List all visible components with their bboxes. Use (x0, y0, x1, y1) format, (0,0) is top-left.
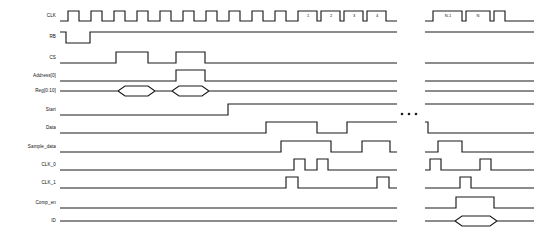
signal-label-data: Data (46, 125, 56, 130)
signal-label-clk-1: CLK_1 (41, 180, 56, 185)
ellipsis-dot-3 (415, 113, 418, 116)
timing-diagram: CLK RB CS Address[0] Reg[0:10] Start Dat… (0, 0, 538, 236)
signal-label-id: ID (51, 218, 56, 223)
signal-label-address0: Address[0] (33, 73, 56, 78)
signal-label-cs: CS (49, 55, 56, 60)
signal-label-comp-en: Comp_en (35, 200, 56, 205)
signal-label-clk-0: CLK_0 (41, 162, 56, 167)
diagram-background (0, 0, 538, 236)
cycle-label-n: N (477, 13, 480, 18)
signal-label-clk: CLK (47, 13, 57, 18)
signal-label-sample-data: Sample_data (28, 144, 57, 149)
timing-waveform-canvas: CLK RB CS Address[0] Reg[0:10] Start Dat… (0, 0, 538, 236)
signal-label-start: Start (46, 107, 57, 112)
signal-label-reg0to10: Reg[0:10] (35, 88, 56, 93)
cycle-label-n-1: N-1 (445, 13, 452, 18)
signal-label-rb: RB (49, 34, 56, 39)
ellipsis-dot-1 (401, 113, 404, 116)
ellipsis-dot-2 (408, 113, 411, 116)
